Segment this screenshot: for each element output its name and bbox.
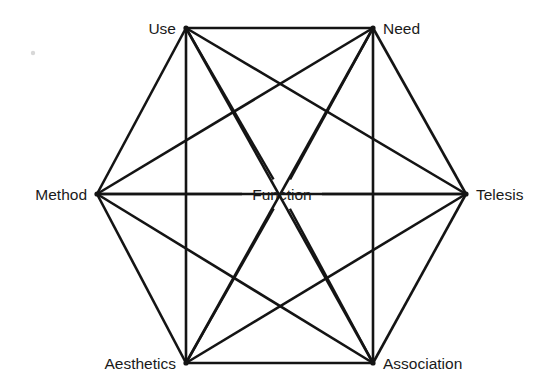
- node-label-association: Association: [383, 355, 462, 372]
- node-label-use: Use: [148, 20, 176, 37]
- node-label-function: Function: [252, 186, 311, 203]
- vertex-dot-method: [94, 191, 99, 196]
- vertex-dot-use: [183, 25, 188, 30]
- node-label-need: Need: [383, 20, 420, 37]
- vertex-dot-need: [370, 25, 375, 30]
- function-complex-diagram: UseNeedTelesisAssociationAestheticsMetho…: [0, 0, 551, 386]
- vertex-dot-aesthetics: [183, 360, 188, 365]
- node-label-telesis: Telesis: [476, 186, 524, 203]
- vertex-dot-association: [370, 360, 375, 365]
- node-label-method: Method: [35, 186, 87, 203]
- diagram-canvas: UseNeedTelesisAssociationAestheticsMetho…: [0, 0, 551, 386]
- node-label-aesthetics: Aesthetics: [104, 355, 176, 372]
- scan-artifact-speck: [31, 51, 35, 55]
- vertex-dot-telesis: [463, 191, 468, 196]
